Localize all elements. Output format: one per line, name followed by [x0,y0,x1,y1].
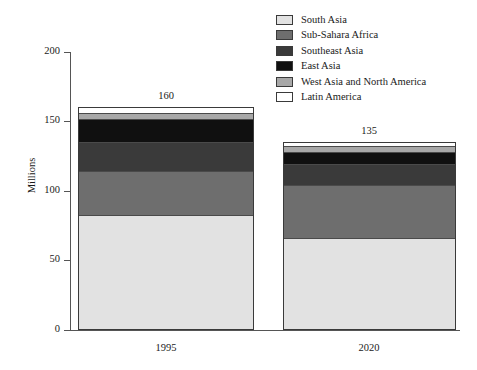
bar-segment-1995-south-asia [79,216,253,329]
bar-segment-1995-east-asia [79,120,253,142]
y-tick-50 [64,260,70,261]
y-tick-100 [64,191,70,192]
y-tick-label-150: 150 [30,115,60,126]
y-tick-label-200: 200 [30,46,60,57]
bar-1995[interactable] [78,107,254,330]
y-tick-label-50: 50 [30,254,60,265]
bar-total-label-2020: 135 [339,126,399,137]
bar-segment-1995-sub-sahara-africa [79,172,253,216]
y-tick-label-0: 0 [30,324,60,335]
bar-segment-2020-east-asia [284,153,455,165]
y-tick-label-50-wrap: 50 [28,254,60,266]
bar-segment-1995-west-asia-and-north-america [79,114,253,121]
y-tick-150 [64,121,70,122]
y-tick-0 [64,330,70,331]
bar-segment-2020-southeast-asia [284,165,455,186]
x-tick-label-2020: 2020 [329,343,409,354]
bar-segment-2020-sub-sahara-africa [284,186,455,240]
y-tick-label-0-wrap: 0 [28,324,60,336]
bar-segment-2020-south-asia [284,239,455,329]
y-axis-line [70,52,71,331]
bar-total-label-1995: 160 [136,91,196,102]
y-tick-label-200-wrap: 200 [28,46,60,58]
bar-segment-1995-southeast-asia [79,143,253,172]
plot-area: 200 150 100 50 0 Millions 160 1995 [0,0,477,370]
y-tick-200 [64,52,70,53]
y-axis-title: Millions [26,141,37,211]
bar-2020[interactable] [283,142,456,330]
x-tick-label-1995: 1995 [126,343,206,354]
y-tick-label-150-wrap: 150 [28,115,60,127]
x-axis-baseline [70,330,460,331]
chart-page: South Asia Sub-Sahara Africa Southeast A… [0,0,477,370]
